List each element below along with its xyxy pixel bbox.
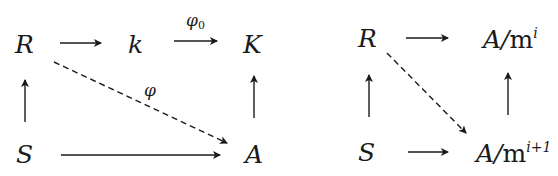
arrow-R-to-A-mod-m-i1-dashed <box>387 53 466 133</box>
arrow-layer <box>0 0 558 176</box>
arrow-R-to-A-dashed <box>54 62 227 143</box>
commutative-diagrams: R k K S A φ0 φ R A/mi S A/mi+1 <box>0 0 558 176</box>
